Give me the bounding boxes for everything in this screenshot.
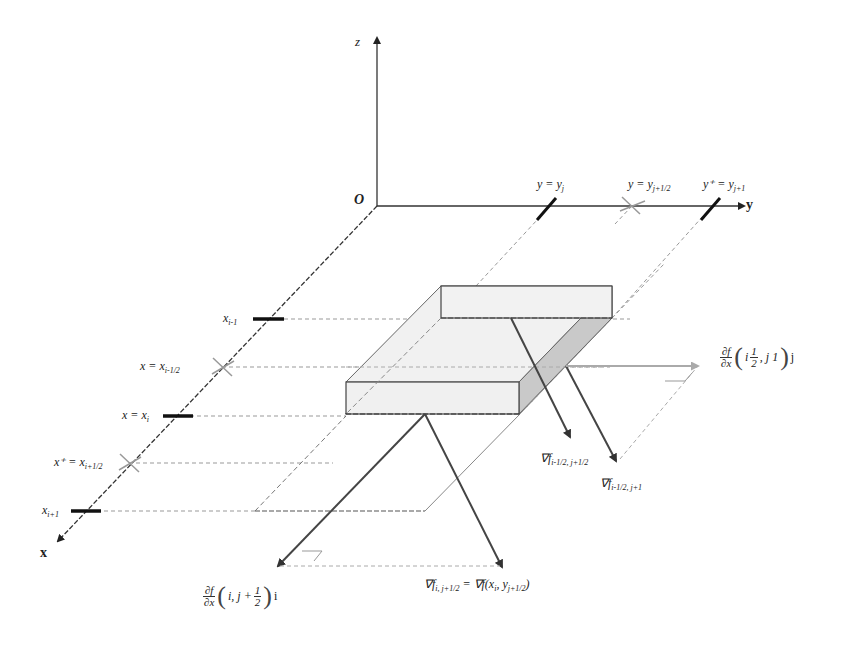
prism-back-face <box>441 286 612 318</box>
grad-top-right-arrow <box>566 366 616 461</box>
prism-front-face <box>346 382 519 414</box>
grad-bottom-label: ∇fi, j+1/2 = ∇f(xi, yj+1/2) <box>424 578 530 593</box>
y-tick-label-j-plus-half: y = yj+1/2 <box>628 178 671 193</box>
partial-x-arrow <box>278 414 425 566</box>
y-tick-label-j: y = yj <box>537 178 564 193</box>
grad-bottom-arrow <box>425 414 502 567</box>
origin-label: O <box>354 193 364 207</box>
finite-volume-diagram <box>0 0 861 654</box>
x-tick-label-i-plus-1: xi+1 <box>42 504 59 519</box>
x-axis-label: x <box>40 546 47 560</box>
axes <box>58 38 744 541</box>
partial-x-label: ∂f∂x ( i, j + 12 ) i <box>203 583 277 609</box>
x-tick-label-i: x = xi <box>122 409 149 424</box>
y-axis-label: y <box>746 198 753 212</box>
y-tick-label-j-plus-1: y⁺ = yj+1 <box>703 178 745 193</box>
partial-y-label: ∂f∂x ( i 12 , j 1 ) j <box>720 344 794 370</box>
x-axis <box>58 206 377 541</box>
z-axis-label: z <box>355 35 360 48</box>
x-axis-ticks <box>71 319 284 511</box>
y-axis-ticks <box>537 197 720 220</box>
x-tick-label-i-plus-half: x⁺ = xi+1/2 <box>54 456 103 471</box>
x-tick-label-i-minus-1: xi-1 <box>223 312 237 327</box>
cell-prism <box>346 286 612 414</box>
grad-top-right-label: ∇fi-1/2, j+1 <box>600 477 642 492</box>
x-tick-label-i-minus-half: x = xi-1/2 <box>140 360 180 375</box>
grad-top-left-label: ∇fi-1/2, j+1/2 <box>540 452 588 467</box>
